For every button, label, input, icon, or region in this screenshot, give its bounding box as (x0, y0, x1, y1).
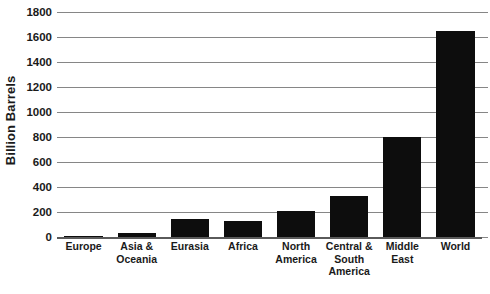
x-axis-category-label: Asia &Oceania (110, 240, 163, 265)
axis-tick-mark (482, 237, 488, 238)
bar (436, 31, 474, 237)
x-axis-label-line: South (323, 253, 376, 266)
plot-area (57, 12, 482, 237)
x-axis-label-line: World (429, 240, 482, 253)
y-axis-tick-label: 1200 (18, 81, 52, 93)
y-axis-tick-label: 600 (18, 156, 52, 168)
x-axis-label-line: America (270, 253, 323, 266)
x-axis-label-line: America (323, 265, 376, 278)
axis-tick-mark (482, 187, 488, 188)
x-axis-category-label: World (429, 240, 482, 253)
bar-chart: Billion Barrels 180016001400120010008006… (0, 0, 490, 294)
x-axis-label-line: Europe (57, 240, 110, 253)
bar (118, 233, 156, 237)
bars-series (57, 12, 482, 237)
x-axis-category-label: Europe (57, 240, 110, 253)
axis-tick-mark (482, 162, 488, 163)
x-axis-category-label: Eurasia (163, 240, 216, 253)
y-axis-tick-label: 200 (18, 206, 52, 218)
x-axis-label-line: North (270, 240, 323, 253)
axis-tick-mark (482, 62, 488, 63)
x-axis-category-labels: EuropeAsia &OceaniaEurasiaAfricaNorthAme… (57, 240, 482, 294)
x-axis-label-line: Eurasia (163, 240, 216, 253)
axis-tick-mark (482, 212, 488, 213)
y-axis-title-text: Billion Barrels (4, 75, 19, 165)
bar (224, 221, 262, 237)
y-axis-tick-label: 1600 (18, 31, 52, 43)
axis-tick-mark (482, 37, 488, 38)
bar (277, 211, 315, 237)
y-axis-tick-label: 800 (18, 131, 52, 143)
axis-tick-mark (482, 112, 488, 113)
x-axis-label-line: Asia & (110, 240, 163, 253)
y-axis-tick-label: 1400 (18, 56, 52, 68)
y-axis-tick-label: 0 (18, 231, 52, 243)
y-axis-tick-labels: 180016001400120010008006004002000 (18, 5, 52, 237)
x-axis-label-line: Middle (376, 240, 429, 253)
x-axis-category-label: MiddleEast (376, 240, 429, 265)
right-axis-ticks (482, 12, 488, 237)
bar (171, 219, 209, 237)
x-axis-category-label: Africa (216, 240, 269, 253)
bar (383, 137, 421, 237)
x-axis-category-label: Central &SouthAmerica (323, 240, 376, 278)
x-axis-category-label: NorthAmerica (270, 240, 323, 265)
axis-tick-mark (482, 137, 488, 138)
y-axis-tick-label: 1000 (18, 106, 52, 118)
axis-baseline (57, 237, 482, 239)
axis-tick-mark (482, 87, 488, 88)
bar (64, 236, 102, 238)
y-axis-tick-label: 400 (18, 181, 52, 193)
x-axis-label-line: Africa (216, 240, 269, 253)
x-axis-label-line: Central & (323, 240, 376, 253)
x-axis-label-line: Oceania (110, 253, 163, 266)
axis-tick-mark (482, 12, 488, 13)
y-axis-tick-label: 1800 (18, 6, 52, 18)
bar (330, 196, 368, 237)
x-axis-label-line: East (376, 253, 429, 266)
